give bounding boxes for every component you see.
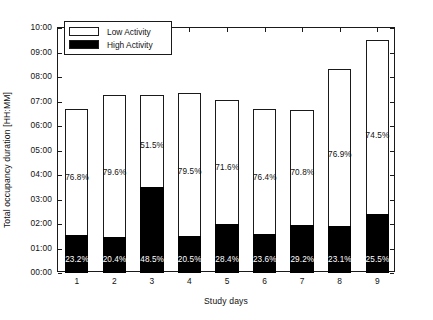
- legend-swatch-low-activity-icon: [69, 27, 99, 36]
- plot-area: 00:0001:0002:0003:0004:0005:0006:0007:00…: [57, 27, 395, 272]
- y-tick-mark: [58, 102, 62, 103]
- y-tick-label: 06:00: [31, 120, 52, 130]
- x-tick-label: 4: [179, 276, 199, 286]
- y-tick-mark-right: [390, 53, 394, 54]
- bar-label-low-activity: 51.5%: [140, 141, 163, 150]
- bar-label-low-activity: 76.9%: [328, 150, 351, 159]
- bar-label-high-activity: 23.6%: [253, 255, 276, 264]
- x-tick-mark-top: [189, 28, 190, 32]
- x-tick-mark-top: [340, 28, 341, 32]
- y-tick-label: 04:00: [31, 169, 52, 179]
- x-tick-mark-top: [302, 28, 303, 32]
- bar-stack: 76.8%23.2%: [65, 109, 88, 273]
- bar-label-low-activity: 79.5%: [178, 167, 201, 176]
- y-tick-mark-right: [390, 77, 394, 78]
- bar-label-low-activity: 76.8%: [65, 173, 88, 182]
- x-tick-mark-top: [265, 28, 266, 32]
- bar-stack: 76.4%23.6%: [253, 109, 276, 273]
- x-tick-label: 1: [67, 276, 87, 286]
- y-tick-label: 02:00: [31, 218, 52, 228]
- chart-legend: Low Activity High Activity: [64, 21, 172, 55]
- bar-segment-high-activity: [253, 234, 276, 273]
- bar-label-high-activity: 20.5%: [178, 255, 201, 264]
- x-tick-mark-top: [377, 28, 378, 32]
- bar-stack: 76.9%23.1%: [328, 69, 351, 273]
- y-tick-mark-right: [390, 200, 394, 201]
- y-tick-mark-right: [390, 224, 394, 225]
- y-tick-label: 09:00: [31, 47, 52, 57]
- bar-label-low-activity: 76.4%: [253, 173, 276, 182]
- y-tick-label: 05:00: [31, 145, 52, 155]
- y-tick-mark-right: [390, 102, 394, 103]
- legend-item-high-activity: High Activity: [69, 38, 167, 51]
- y-axis-title: Total occupancy duration [HH:MM]: [2, 92, 12, 228]
- y-tick-mark-right: [390, 175, 394, 176]
- y-tick-mark-right: [390, 126, 394, 127]
- bar-label-low-activity: 74.5%: [366, 131, 389, 140]
- legend-label-high-activity: High Activity: [107, 40, 153, 50]
- y-tick-label: 08:00: [31, 71, 52, 81]
- bar-label-high-activity: 20.4%: [103, 255, 126, 264]
- x-tick-label: 5: [217, 276, 237, 286]
- bar-stack: 79.6%20.4%: [103, 95, 126, 273]
- chart-figure: Total occupancy duration [HH:MM] 00:0001…: [0, 0, 433, 320]
- bar-segment-high-activity: [328, 226, 351, 273]
- bar-stack: 70.8%29.2%: [290, 110, 313, 273]
- y-tick-label: 07:00: [31, 96, 52, 106]
- bar-stack: 71.6%28.4%: [215, 100, 238, 273]
- y-tick-mark-right: [390, 273, 394, 274]
- x-axis-title: Study days: [57, 296, 395, 306]
- y-tick-mark: [58, 53, 62, 54]
- y-tick-mark-right: [390, 249, 394, 250]
- y-tick-label: 01:00: [31, 243, 52, 253]
- y-tick-mark: [58, 175, 62, 176]
- y-tick-mark: [58, 224, 62, 225]
- y-tick-label: 00:00: [31, 267, 52, 277]
- y-tick-mark-right: [390, 28, 394, 29]
- bar-label-high-activity: 23.2%: [65, 255, 88, 264]
- bar-stack: 51.5%48.5%: [140, 95, 163, 273]
- bar-label-low-activity: 79.6%: [103, 168, 126, 177]
- y-tick-mark: [58, 28, 62, 29]
- bar-label-high-activity: 29.2%: [290, 255, 313, 264]
- y-tick-label: 10:00: [31, 22, 52, 32]
- bar-label-high-activity: 28.4%: [215, 255, 238, 264]
- bar-segment-high-activity: [215, 224, 238, 273]
- x-tick-label: 7: [292, 276, 312, 286]
- y-tick-mark: [58, 249, 62, 250]
- y-tick-mark: [58, 273, 62, 274]
- x-tick-label: 9: [367, 276, 387, 286]
- bar-label-high-activity: 23.1%: [328, 255, 351, 264]
- y-tick-mark-right: [390, 151, 394, 152]
- bar-segment-high-activity: [290, 225, 313, 273]
- bar-label-high-activity: 25.5%: [366, 255, 389, 264]
- y-tick-mark: [58, 126, 62, 127]
- y-tick-mark: [58, 151, 62, 152]
- y-tick-mark: [58, 200, 62, 201]
- x-tick-mark-top: [227, 28, 228, 32]
- x-tick-label: 8: [330, 276, 350, 286]
- x-tick-label: 6: [255, 276, 275, 286]
- bar-label-high-activity: 48.5%: [140, 255, 163, 264]
- bar-stack: 79.5%20.5%: [178, 93, 201, 273]
- bar-segment-high-activity: [366, 214, 389, 273]
- legend-label-low-activity: Low Activity: [107, 27, 151, 37]
- x-tick-label: 2: [104, 276, 124, 286]
- y-axis-title-container: Total occupancy duration [HH:MM]: [0, 0, 22, 320]
- legend-item-low-activity: Low Activity: [69, 25, 167, 38]
- x-tick-label: 3: [142, 276, 162, 286]
- y-tick-label: 03:00: [31, 194, 52, 204]
- bar-label-low-activity: 71.6%: [215, 163, 238, 172]
- legend-swatch-high-activity-icon: [69, 40, 99, 49]
- bar-label-low-activity: 70.8%: [290, 168, 313, 177]
- bar-stack: 74.5%25.5%: [366, 40, 389, 273]
- y-tick-mark: [58, 77, 62, 78]
